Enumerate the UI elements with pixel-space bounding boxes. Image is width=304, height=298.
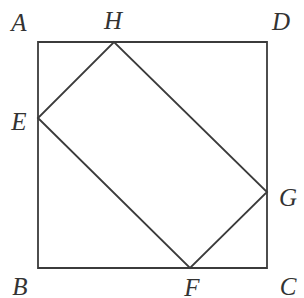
vertex-label-d: D [272, 9, 290, 34]
vertex-label-h: H [104, 8, 122, 33]
vertex-label-c: C [280, 274, 297, 298]
vertex-label-e: E [11, 109, 26, 134]
outer-square-abcd [38, 42, 267, 268]
geometry-figure: A H D E G B F C [0, 0, 304, 298]
vertex-label-a: A [11, 10, 26, 35]
inner-rectangle-efgh [38, 42, 267, 268]
vertex-label-g: G [279, 185, 297, 210]
geometry-canvas [0, 0, 304, 298]
vertex-label-f: F [184, 275, 199, 298]
vertex-label-b: B [12, 274, 27, 298]
